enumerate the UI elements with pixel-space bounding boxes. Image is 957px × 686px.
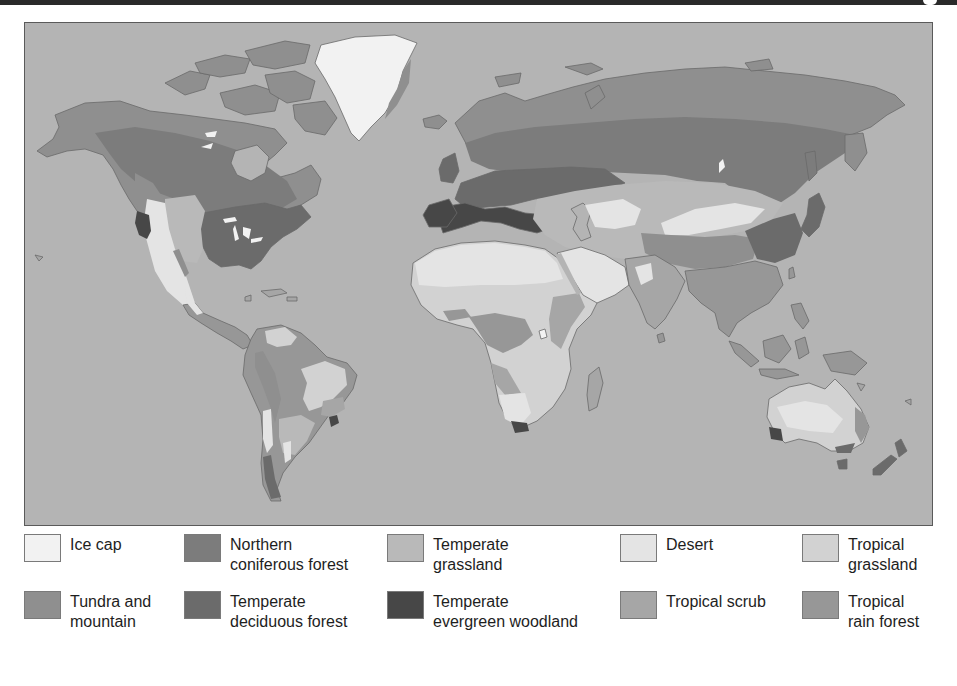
tropical-grassland-swatch (802, 534, 839, 562)
legend-item-tropical-rain-forest: Tropical rain forest (802, 591, 919, 632)
tundra-and-mountain-swatch (24, 591, 61, 619)
legend-label: Temperate grassland (433, 535, 509, 575)
temperate-deciduous-forest-swatch (184, 591, 221, 619)
legend-item-tropical-scrub: Tropical scrub (620, 591, 766, 619)
region-india (625, 255, 685, 329)
region-caribbean (245, 289, 297, 301)
region-sri-lanka (657, 333, 665, 343)
temperate-evergreen-woodland-swatch (387, 591, 424, 619)
temperate-grassland-swatch (387, 534, 424, 562)
tropical-scrub-swatch (620, 591, 657, 619)
legend-label: Tropical rain forest (848, 592, 919, 632)
legend-item-desert: Desert (620, 534, 713, 562)
region-north-america-deciduous (199, 203, 311, 269)
legend-label: Tropical scrub (666, 592, 766, 612)
region-new-zealand (873, 439, 907, 475)
legend-item-temperate-deciduous-forest: Temperate deciduous forest (184, 591, 347, 632)
legend-label: Tundra and mountain (70, 592, 151, 632)
legend-item-ice-cap: Ice cap (24, 534, 122, 562)
legend-label: Temperate evergreen woodland (433, 592, 578, 632)
map-canvas (25, 23, 932, 525)
biome-legend: Ice cap Northern coniferous forest Tempe… (0, 534, 957, 654)
legend-item-temperate-evergreen-woodland: Temperate evergreen woodland (387, 591, 578, 632)
legend-label: Ice cap (70, 535, 122, 555)
region-great-britain (439, 153, 459, 183)
region-madagascar (587, 367, 603, 411)
top-decorative-band (0, 0, 957, 5)
region-california-woodland (135, 211, 151, 239)
legend-label: Temperate deciduous forest (230, 592, 347, 632)
ice-cap-swatch (24, 534, 61, 562)
legend-label: Tropical grassland (848, 535, 917, 575)
legend-item-temperate-grassland: Temperate grassland (387, 534, 509, 575)
region-sa-woodland-uruguay (329, 415, 339, 427)
world-biome-map (24, 22, 933, 526)
legend-label: Northern coniferous forest (230, 535, 348, 575)
legend-item-tundra-and-mountain: Tundra and mountain (24, 591, 151, 632)
region-kamchatka (845, 133, 867, 171)
top-band-notch (923, 0, 937, 5)
region-taiwan (789, 267, 795, 279)
region-iceland (423, 115, 447, 129)
desert-swatch (620, 534, 657, 562)
region-southeast-asia (685, 261, 783, 337)
tropical-rain-forest-swatch (802, 591, 839, 619)
region-south-america (243, 325, 357, 501)
legend-label: Desert (666, 535, 713, 555)
northern-coniferous-forest-swatch (184, 534, 221, 562)
region-japan (801, 193, 825, 237)
region-australia-sw-woodland (769, 427, 783, 441)
legend-item-northern-coniferous-forest: Northern coniferous forest (184, 534, 348, 575)
region-tasmania (837, 459, 847, 469)
legend-item-tropical-grassland: Tropical grassland (802, 534, 917, 575)
